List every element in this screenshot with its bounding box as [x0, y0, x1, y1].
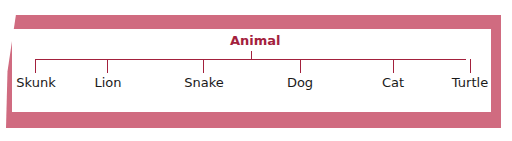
branch-lion — [107, 59, 108, 73]
branch-turtle — [470, 59, 471, 73]
leaf-node-snake: Snake — [184, 75, 224, 90]
branch-dog — [300, 59, 301, 73]
root-node-animal: Animal — [230, 33, 274, 48]
branch-skunk — [35, 59, 36, 73]
branch-snake — [203, 59, 204, 73]
leaf-node-dog: Dog — [287, 75, 313, 90]
leaf-node-cat: Cat — [382, 75, 404, 90]
leaf-node-turtle: Turtle — [452, 75, 488, 90]
leaf-node-lion: Lion — [94, 75, 121, 90]
horizontal-connector — [35, 59, 466, 60]
root-connector — [251, 51, 252, 59]
leaf-node-skunk: Skunk — [16, 75, 55, 90]
branch-cat — [393, 59, 394, 73]
